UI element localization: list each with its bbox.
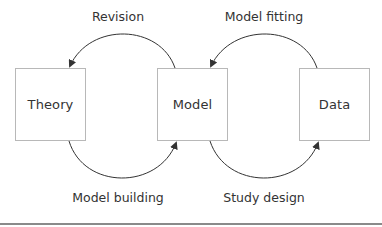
theory-label: Theory bbox=[28, 97, 74, 112]
theory-node: Theory bbox=[15, 68, 86, 141]
study-design-arrow bbox=[210, 141, 318, 178]
model-fitting-arrow bbox=[211, 34, 317, 68]
bottom-divider bbox=[0, 223, 382, 225]
study-design-label: Study design bbox=[223, 190, 305, 205]
revision-arrow bbox=[70, 34, 175, 68]
model-node: Model bbox=[157, 68, 228, 141]
model-label: Model bbox=[173, 97, 213, 112]
model-fitting-label: Model fitting bbox=[225, 9, 304, 24]
model-building-arrow bbox=[69, 141, 176, 178]
cycle-diagram: Theory Model Data Revision Model buildin… bbox=[0, 0, 382, 227]
data-node: Data bbox=[299, 68, 370, 141]
revision-label: Revision bbox=[92, 9, 144, 24]
data-label: Data bbox=[319, 97, 350, 112]
model-building-label: Model building bbox=[72, 190, 164, 205]
